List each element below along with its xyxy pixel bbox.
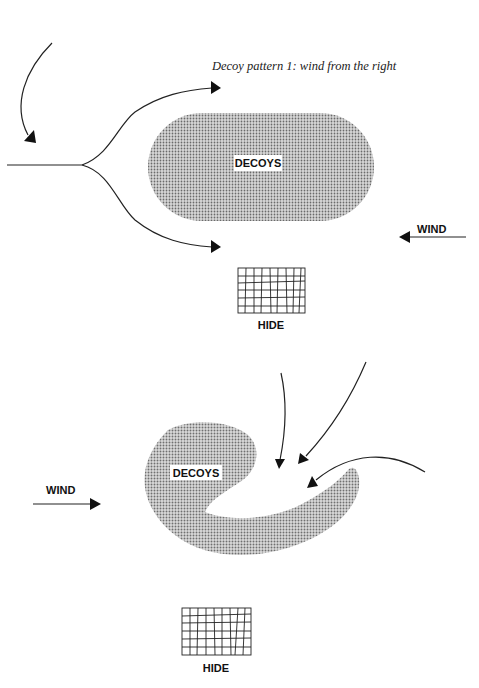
wind-label: WIND	[46, 484, 75, 496]
arrow-head-icon	[275, 459, 285, 469]
arrow-head-icon	[211, 81, 221, 94]
approach-arrow-incoming	[21, 43, 52, 135]
hide-label: HIDE	[203, 662, 229, 674]
wind-label: WIND	[417, 223, 446, 235]
decoy-diagram: Decoy pattern 1: wind from the right DEC…	[0, 0, 479, 688]
arrow-head-icon	[211, 240, 221, 253]
decoys-label: DECOYS	[173, 467, 219, 479]
approach-arrow-1	[280, 373, 285, 460]
hide-blind	[238, 268, 305, 313]
figure-caption: Decoy pattern 1: wind from the right	[211, 59, 397, 73]
decoys-label: DECOYS	[235, 157, 281, 169]
arrow-head-icon	[399, 231, 410, 243]
approach-arrow-3	[316, 457, 425, 480]
pattern-1: DECOYS WIND HIDE	[7, 43, 466, 331]
approach-arrow-2	[306, 362, 366, 456]
arrow-head-icon	[90, 498, 101, 510]
decoy-spread-hook	[145, 422, 360, 555]
pattern-2: DECOYS WIND HIDE	[33, 362, 425, 674]
arrow-head-icon	[24, 130, 36, 143]
hide-label: HIDE	[258, 319, 284, 331]
arrow-head-icon	[307, 476, 318, 488]
hide-blind	[182, 608, 251, 655]
